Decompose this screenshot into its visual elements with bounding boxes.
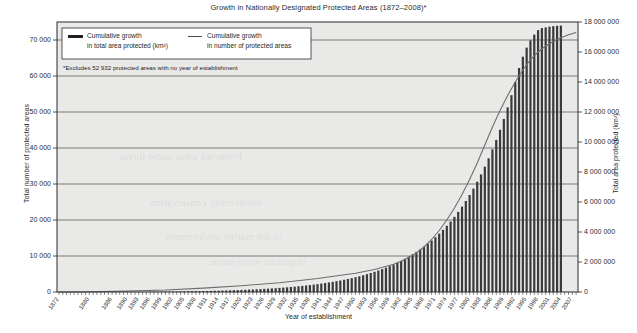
bar [423,247,425,292]
bar [510,95,512,292]
bar [313,285,315,292]
x-axis-tick-label: 1983 [469,296,482,311]
bar [453,217,455,292]
bar [438,234,440,292]
x-axis-tick-label: 1896 [138,296,151,311]
bar [449,221,451,292]
bar [354,277,356,292]
bar [396,263,398,292]
x-axis-tick-label: 1932 [275,296,288,311]
y-axis-right-tick-label: 18 000 000 [584,18,619,25]
x-axis-tick-label: 1998 [526,296,539,311]
bar [484,167,486,292]
x-axis-tick-label: 2001 [538,296,551,311]
bar [294,287,296,292]
bar [347,279,349,292]
y-axis-right-tick-label: 0 [584,288,588,295]
x-axis-tick-label: 1992 [503,296,516,311]
x-axis-tick-labels: 1872188018861890189318961899190219051908… [47,296,573,311]
bar [339,280,341,292]
y-axis-right-tick-label: 4 000 000 [584,228,615,235]
bar [373,272,375,292]
bar [267,289,269,292]
y-axis-left-tick-label: 50 000 [30,108,52,115]
bar [537,30,539,292]
bar [548,27,550,292]
x-axis-tick-label: 1947 [332,296,345,311]
legend-label-area-line2: in total area protected (km²) [87,42,168,50]
bar [271,288,273,292]
bar [499,130,501,292]
bar [556,26,558,292]
bar [282,288,284,292]
bar [480,174,482,292]
x-axis-tick-label: 1935 [287,296,300,311]
x-axis-tick-label: 1962 [389,296,402,311]
x-axis-tick-label: 1980 [458,296,471,311]
bar [381,269,383,292]
y-axis-right-tick-label: 2 000 000 [584,258,615,265]
x-axis-tick-label: 1914 [207,296,220,311]
legend-label-area-line1: Cumulative growth [87,32,142,40]
x-axis-tick-label: 1926 [253,296,266,311]
x-axis-tick-label: 1905 [173,296,186,311]
bar [358,276,360,292]
bar [343,280,345,292]
bar [503,119,505,292]
bar [408,257,410,292]
chart-footnote: *Excludes 52 932 protected areas with no… [63,64,238,71]
y-axis-right-ticks: 02 000 0004 000 0006 000 0008 000 00010 … [578,18,619,295]
bar [529,40,531,292]
y-axis-right-tick-label: 12 000 000 [584,108,619,115]
bar [370,273,372,292]
x-axis-tick-label: 1944 [321,296,334,311]
bar [541,28,543,292]
x-axis-tick-label: 1929 [264,296,277,311]
bar [495,140,497,292]
y-axis-left-tick-label: 70 000 [30,36,52,43]
y-axis-left-tick-label: 30 000 [30,180,52,187]
bar [457,212,459,292]
chart-plot: 010 00020 00030 00040 00050 00060 00070 … [0,0,637,333]
bar [476,182,478,292]
bar [461,207,463,292]
bar [465,201,467,292]
y-axis-right-tick-label: 8 000 000 [584,168,615,175]
bar [278,288,280,292]
x-axis-tick-label: 1886 [100,296,113,311]
bar [491,149,493,292]
bar [472,189,474,292]
bar [400,261,402,292]
y-axis-right-tick-label: 6 000 000 [584,198,615,205]
bar [507,107,509,292]
bar [446,226,448,292]
y-axis-left-tick-label: 40 000 [30,144,52,151]
x-axis-tick-label: 1902 [161,296,174,311]
x-axis-tick-label: 1938 [298,296,311,311]
bar [332,282,334,292]
bar [275,288,277,292]
bar [366,274,368,292]
x-axis-tick-label: 1971 [424,296,437,311]
x-axis-tick-label: 1923 [241,296,254,311]
bar [404,259,406,292]
x-axis-tick-label: 1959 [378,296,391,311]
x-axis-tick-label: 1956 [367,296,380,311]
bar [526,48,528,292]
legend: Cumulative growthin total area protected… [62,28,311,59]
y-axis-left-tick-label: 10 000 [30,252,52,259]
x-axis-tick-label: 1941 [310,296,323,311]
x-axis-tick-label: 1920 [230,296,243,311]
x-axis-tick-label: 1989 [492,296,505,311]
bar [430,241,432,292]
bar [419,249,421,292]
bar [434,237,436,292]
x-axis-tick-label: 1893 [127,296,140,311]
x-axis-tick-label: 1995 [515,296,528,311]
y-axis-right-tick-label: 16 000 000 [584,48,619,55]
bar [290,287,292,292]
x-axis-tick-label: 1880 [78,296,91,311]
bar [324,283,326,292]
y-axis-left-tick-label: 60 000 [30,72,52,79]
bar [552,26,554,292]
